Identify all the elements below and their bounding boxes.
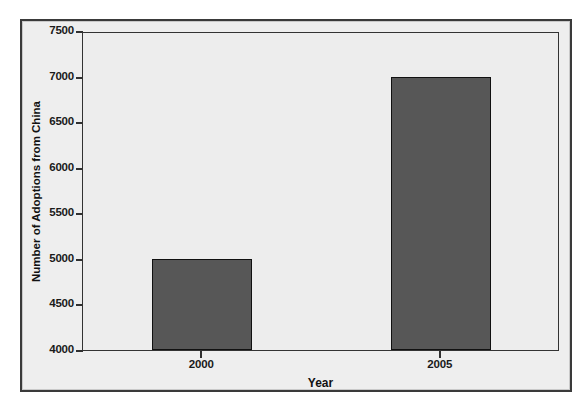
- y-axis-tick-label: 6500: [30, 115, 74, 127]
- x-axis-tick-mark: [200, 351, 202, 358]
- x-axis-title: Year: [82, 376, 559, 390]
- y-axis-tick-label: 4500: [30, 297, 74, 309]
- y-axis-tick-label: 5500: [30, 206, 74, 218]
- bar-2005: [391, 77, 491, 350]
- y-axis-tick-label: 5000: [30, 252, 74, 264]
- y-axis-tick-label: 7000: [30, 70, 74, 82]
- bar-chart-figure: Number of Adoptions from China 750070006…: [0, 0, 588, 407]
- y-axis-tick-label: 7500: [30, 24, 74, 36]
- x-axis-tick-label: 2005: [400, 358, 480, 370]
- y-axis-tick-label: 4000: [30, 343, 74, 355]
- plot-canvas: [83, 33, 558, 350]
- x-axis-tick-mark: [439, 351, 441, 358]
- x-axis-tick-label: 2000: [161, 358, 241, 370]
- y-axis-tick-label: 6000: [30, 161, 74, 173]
- plot-area: [82, 32, 559, 351]
- bar-2000: [152, 259, 252, 350]
